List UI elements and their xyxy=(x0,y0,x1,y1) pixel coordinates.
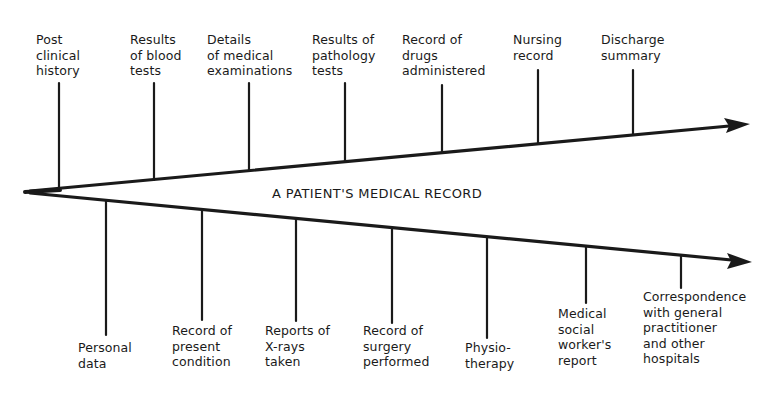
label-correspondence: Correspondence with general practitioner… xyxy=(643,289,746,367)
medical-record-diagram: A PATIENT'S MEDICAL RECORD Post clinical… xyxy=(0,0,782,393)
label-social-worker: Medical social worker's report xyxy=(558,306,611,368)
lower-branch-line xyxy=(30,193,742,261)
label-post-clinical-history: Post clinical history xyxy=(36,32,80,79)
label-personal-data: Personal data xyxy=(78,340,132,371)
label-details-medical-exams: Details of medical examinations xyxy=(207,32,292,79)
label-xrays: Reports of X-rays taken xyxy=(265,323,330,370)
diagram-title: A PATIENT'S MEDICAL RECORD xyxy=(272,186,482,201)
label-present-condition: Record of present condition xyxy=(172,323,232,370)
label-discharge-summary: Discharge summary xyxy=(601,32,665,63)
label-physiotherapy: Physio- therapy xyxy=(465,340,514,371)
label-results-blood-tests: Results of blood tests xyxy=(130,32,181,79)
label-nursing-record: Nursing record xyxy=(513,32,562,63)
label-surgery: Record of surgery performed xyxy=(363,323,429,370)
label-record-drugs: Record of drugs administered xyxy=(402,32,485,79)
label-results-pathology-tests: Results of pathology tests xyxy=(312,32,375,79)
